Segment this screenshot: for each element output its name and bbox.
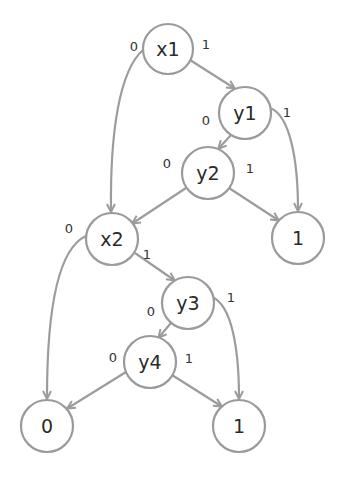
edge-label-y1-y2: 0 [202,113,210,128]
svg-text:y4: y4 [138,351,161,373]
node-y4: y4 [124,336,176,388]
edge-label-y2-x2: 0 [163,156,171,171]
edge-y2-t1a-1 [229,188,278,220]
node-y3: y3 [162,277,214,329]
edge-label-x1-x2: 0 [130,39,138,54]
node-x2: x2 [86,213,138,265]
bdd-diagram: 0 1 0 1 0 1 0 1 0 1 0 1 x1 y1 y2 x2 [0,0,341,478]
edge-label-y4-t0: 0 [109,350,117,365]
edge-y2-x2-0 [133,188,186,223]
node-y2: y2 [182,147,234,199]
node-y1: y1 [219,87,271,139]
edge-y3-t1b-1 [212,297,239,398]
terminal-1-upper: 1 [272,212,324,264]
svg-text:1: 1 [292,227,304,249]
svg-text:y1: y1 [233,102,256,124]
edge-label-y3-y4: 0 [147,304,155,319]
edge-y3-y4-0 [159,323,171,337]
edge-y4-t0-0 [68,372,126,408]
edge-x1-y1-1 [190,60,234,88]
svg-text:y3: y3 [176,292,199,314]
nodes: x1 y1 y2 x2 1 y3 y4 0 [21,24,324,452]
terminal-1-lower: 1 [213,400,265,452]
edge-label-x1-y1: 1 [202,37,210,52]
edge-label-y4-t1b: 1 [185,351,193,366]
edge-x2-t0-0 [47,236,86,398]
svg-text:y2: y2 [196,162,219,184]
edge-y4-t1b-1 [172,375,221,406]
edge-x2-y3-1 [135,253,174,280]
edge-x1-x2-0 [111,50,143,211]
svg-text:1: 1 [233,415,245,437]
svg-text:x1: x1 [156,38,179,60]
edge-label-x2-t0: 0 [65,221,73,236]
node-x1: x1 [143,24,193,74]
svg-text:x2: x2 [100,228,123,250]
edge-label-y2-t1a: 1 [246,161,254,176]
terminal-0: 0 [21,400,73,452]
edge-label-y1-t1a: 1 [283,105,291,120]
svg-text:0: 0 [41,415,53,437]
edge-label-x2-y3: 1 [143,247,151,262]
edge-y1-t1a-1 [270,108,298,210]
edge-label-y3-t1b: 1 [227,290,235,305]
edge-y1-y2-0 [219,135,231,148]
